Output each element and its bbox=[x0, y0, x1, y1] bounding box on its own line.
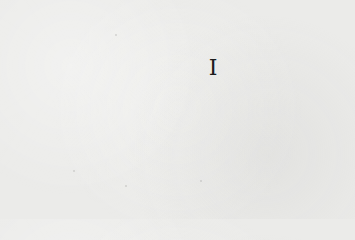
paper-speck bbox=[115, 34, 117, 36]
scanned-page: I bbox=[0, 0, 355, 219]
paper-speck bbox=[73, 170, 75, 172]
section-numeral: I bbox=[205, 56, 221, 80]
paper-speck bbox=[125, 185, 127, 187]
paper-speck bbox=[200, 180, 202, 182]
